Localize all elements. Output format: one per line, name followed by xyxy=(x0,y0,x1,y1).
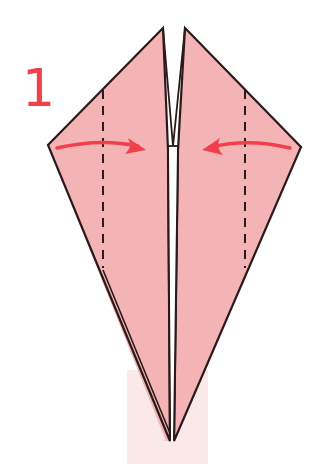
step-number: 1 xyxy=(22,62,55,114)
left-flap xyxy=(48,28,172,441)
right-flap xyxy=(174,28,301,441)
